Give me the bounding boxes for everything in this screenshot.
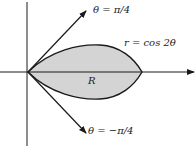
region-label: R — [88, 76, 96, 86]
curve-label: r = cos 2θ — [124, 38, 176, 48]
lower-ray-label: θ = −π/4 — [88, 126, 133, 136]
upper-ray-label: θ = π/4 — [93, 5, 130, 15]
